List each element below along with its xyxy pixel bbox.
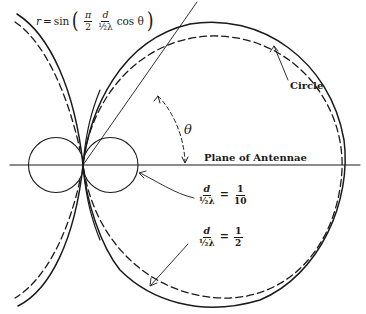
- formula-close-paren: ): [147, 10, 154, 32]
- formula-open-paren: (: [72, 10, 79, 32]
- ratio-large-equals: =: [220, 230, 229, 243]
- formula-pi-over-2: π 2: [84, 10, 92, 32]
- diagram-canvas: [0, 0, 366, 314]
- frac-den: 2: [85, 22, 91, 32]
- formula-func: sin: [54, 15, 70, 27]
- frac-num: 1: [236, 184, 245, 196]
- frac-den: 2: [235, 238, 241, 248]
- formula-tail: cos θ: [117, 15, 144, 27]
- ratio-small-leader: [140, 173, 194, 198]
- ratio-small-rhs: 1 10: [234, 184, 247, 206]
- ratio-small-label: d ½λ = 1 10: [197, 184, 248, 206]
- theta-angle-arc: [158, 96, 185, 162]
- ratio-large-leader: [151, 244, 188, 285]
- ratio-large-rhs: 1 2: [234, 226, 243, 248]
- reference-circle-right-dashed: [83, 36, 342, 298]
- ratio-large-label: d ½λ = 1 2: [197, 226, 245, 248]
- formula-lhs: r: [36, 15, 41, 27]
- frac-num: π: [84, 10, 92, 22]
- formula-d-over-half-lambda: d ½λ: [98, 10, 112, 32]
- ratio-small-lhs: d ½λ: [199, 184, 215, 206]
- frac-den: ½λ: [199, 196, 215, 206]
- formula-equals: =: [43, 15, 52, 27]
- frac-den: 10: [234, 196, 247, 206]
- frac-num: d: [101, 10, 109, 22]
- pattern-formula: r = sin ( π 2 d ½λ cos θ ): [36, 10, 154, 32]
- frac-den: ½λ: [98, 22, 112, 32]
- ratio-large-lhs: d ½λ: [199, 226, 215, 248]
- circle-label: Circle: [290, 80, 323, 91]
- frac-den: ½λ: [199, 238, 215, 248]
- large-lobe-left-solid: [17, 14, 83, 306]
- reference-circle-left-dashed: [15, 22, 80, 298]
- frac-num: d: [203, 226, 212, 238]
- theta-label: θ: [184, 122, 192, 137]
- circle-label-leader: [274, 46, 288, 80]
- frac-num: d: [203, 184, 212, 196]
- frac-num: 1: [234, 226, 243, 238]
- plane-of-antennae-label: Plane of Antennae: [204, 152, 307, 163]
- ratio-small-equals: =: [220, 188, 229, 201]
- antenna-radiation-pattern-diagram: r = sin ( π 2 d ½λ cos θ ) Circle Plane …: [0, 0, 366, 314]
